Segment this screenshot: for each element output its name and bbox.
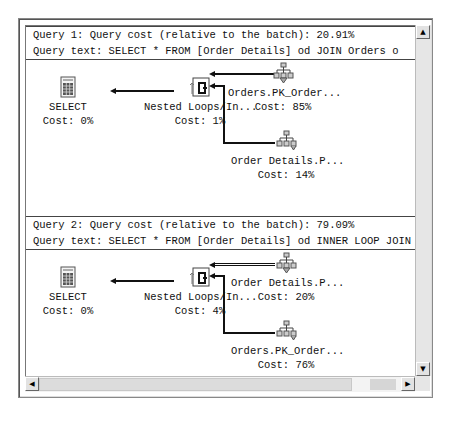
- arrow-line: [223, 85, 225, 143]
- node-cost: Cost: 85%: [228, 100, 338, 114]
- arrow-head-icon: [209, 83, 215, 89]
- node-label: Orders.PK_Order...: [231, 344, 341, 358]
- query-1-header: Query 1: Query cost (relative to the bat…: [26, 26, 416, 60]
- query-1-text: Query text: SELECT * FROM [Order Details…: [26, 43, 416, 59]
- scroll-down-button[interactable]: ▼: [416, 362, 430, 376]
- node-cost: Cost: 1%: [144, 114, 256, 128]
- scrollbar-corner: [415, 376, 430, 391]
- query-2-header: Query 2: Query cost (relative to the bat…: [26, 216, 416, 250]
- arrow-head-icon: [110, 88, 116, 94]
- horizontal-scroll-thumb[interactable]: [39, 378, 352, 391]
- execution-plan-pane: Query 1: Query cost (relative to the bat…: [18, 18, 433, 398]
- q2-select-node[interactable]: SELECT Cost: 0%: [38, 266, 98, 318]
- arrow-head-icon: [209, 71, 215, 77]
- index-scan-icon: [275, 130, 297, 152]
- q2-inner-node[interactable]: Orders.PK_Order... Cost: 76%: [231, 320, 341, 372]
- index-seek-icon: [272, 62, 294, 84]
- scroll-left-button[interactable]: ◀: [25, 377, 39, 391]
- query-2-cost: Query 2: Query cost (relative to the bat…: [26, 217, 416, 233]
- horizontal-scroll-track-segment[interactable]: [370, 379, 396, 390]
- query-1-cost: Query 1: Query cost (relative to the bat…: [26, 27, 416, 43]
- arrow-line: [223, 275, 225, 333]
- node-cost: Cost: 76%: [231, 358, 341, 372]
- nested-loops-icon: [189, 76, 211, 98]
- index-scan-icon: [275, 320, 297, 342]
- arrow-head-icon: [110, 278, 116, 284]
- node-cost: Cost: 0%: [38, 114, 98, 128]
- node-cost: Cost: 0%: [38, 304, 98, 318]
- arrow-head-icon: [209, 273, 215, 279]
- arrow-head-icon: [209, 262, 215, 268]
- select-icon: [57, 76, 79, 98]
- query-2-text: Query text: SELECT * FROM [Order Details…: [26, 233, 416, 249]
- q1-select-node[interactable]: SELECT Cost: 0%: [38, 76, 98, 128]
- plan-canvas: Query 1: Query cost (relative to the bat…: [25, 25, 417, 378]
- nested-loops-icon: [189, 266, 211, 288]
- horizontal-scrollbar[interactable]: ◀ ▶: [25, 376, 415, 392]
- node-cost: Cost: 14%: [231, 168, 341, 182]
- scroll-right-button[interactable]: ▶: [401, 377, 415, 391]
- node-label: Order Details.P...: [231, 276, 341, 290]
- node-label: Order Details.P...: [231, 154, 341, 168]
- index-seek-icon: [275, 252, 297, 274]
- node-label: SELECT: [38, 290, 98, 304]
- node-label: SELECT: [38, 100, 98, 114]
- vertical-scrollbar[interactable]: ▲ ▼: [415, 25, 431, 376]
- q2-outer-node[interactable]: Order Details.P... Cost: 20%: [231, 252, 341, 304]
- select-icon: [57, 266, 79, 288]
- node-cost: Cost: 4%: [144, 304, 256, 318]
- q1-outer-node[interactable]: Orders.PK_Order... Cost: 85%: [228, 62, 338, 114]
- node-cost: Cost: 20%: [231, 290, 341, 304]
- scroll-up-button[interactable]: ▲: [416, 25, 430, 39]
- node-label: Orders.PK_Order...: [228, 86, 338, 100]
- q1-inner-node[interactable]: Order Details.P... Cost: 14%: [231, 130, 341, 182]
